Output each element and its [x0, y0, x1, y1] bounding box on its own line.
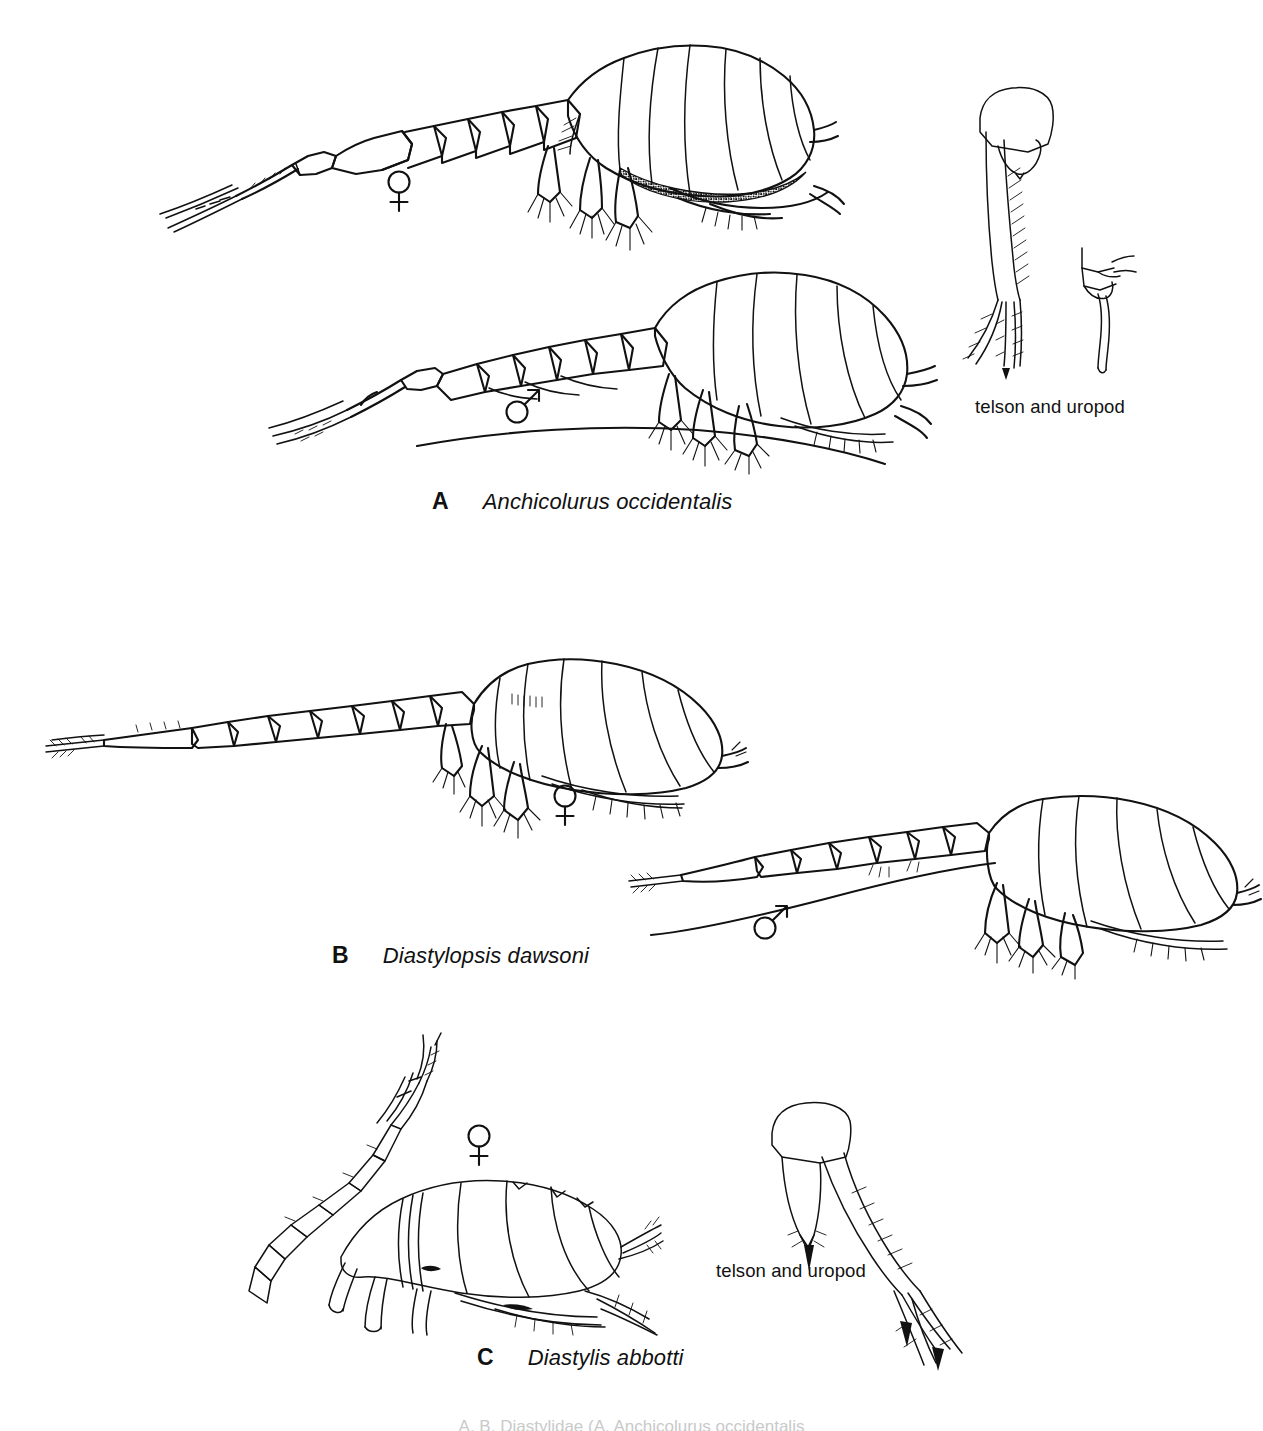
- panel-species-c: Diastylis abbotti: [528, 1345, 684, 1371]
- telson-uropod-text-a: telson and uropod: [975, 396, 1125, 417]
- illustration-diastylis-female: [245, 1025, 665, 1335]
- panel-species-b: Diastylopsis dawsoni: [383, 943, 589, 969]
- panel-label-a: A Anchicolurus occidentalis: [432, 488, 732, 515]
- telson-uropod-text-c: telson and uropod: [716, 1260, 866, 1281]
- panel-label-b: B Diastylopsis dawsoni: [332, 942, 589, 969]
- detail-label-telson-uropod-c: telson and uropod: [716, 1260, 866, 1282]
- illustration-anchicolurus-female: [150, 18, 830, 248]
- panel-label-c: C Diastylis abbotti: [477, 1344, 684, 1371]
- illustration-anchicolurus-male: [265, 258, 945, 473]
- detail-telson-uropod-c: [760, 1095, 970, 1385]
- panel-species-a: Anchicolurus occidentalis: [483, 489, 733, 515]
- panel-letter-a: A: [432, 488, 449, 515]
- sex-symbol-female-a: [382, 168, 416, 214]
- panel-letter-b: B: [332, 942, 349, 969]
- bottom-caption-text: A, B, Diastylidae (A, Anchicolurus occid…: [459, 1417, 805, 1431]
- sex-symbol-male-a: [504, 384, 544, 426]
- sex-symbol-male-b: [752, 900, 792, 942]
- detail-telson-uropod-a: [952, 82, 1142, 382]
- panel-letter-c: C: [477, 1344, 494, 1371]
- sex-symbol-female-c: [462, 1122, 496, 1168]
- detail-label-telson-uropod-a: telson and uropod: [975, 396, 1125, 418]
- bottom-caption: A, B, Diastylidae (A, Anchicolurus occid…: [0, 1417, 1263, 1431]
- illustration-diastylopsis-male: [625, 795, 1250, 970]
- sex-symbol-female-b: [548, 782, 582, 828]
